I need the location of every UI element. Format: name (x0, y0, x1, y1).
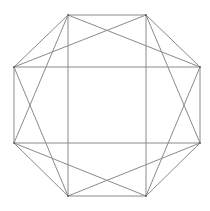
octagon-edges (14, 15, 200, 196)
vertex-D (199, 142, 201, 144)
chord-CE (146, 67, 200, 196)
chord-AC (68, 15, 200, 67)
vertex-E (145, 195, 147, 197)
chord-FH (14, 67, 68, 196)
edge-DE (146, 143, 200, 196)
edge-HA (14, 15, 68, 67)
vertex-G (13, 142, 15, 144)
edge-FG (14, 143, 68, 196)
vertex-C (199, 66, 201, 68)
vertex-F (67, 195, 69, 197)
vertex-A (67, 14, 69, 16)
vertex-B (145, 14, 147, 16)
octagon-diagram (0, 0, 210, 211)
chord-GA (14, 15, 68, 143)
edge-BC (146, 15, 200, 67)
chord-DF (68, 143, 200, 196)
octagon-chords (14, 15, 200, 196)
chord-BD (146, 15, 200, 143)
chord-EG (14, 143, 146, 196)
vertex-H (13, 66, 15, 68)
chord-HB (14, 15, 146, 67)
